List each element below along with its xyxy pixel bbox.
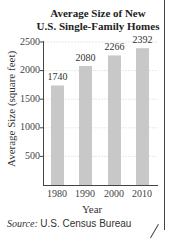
x-tick-label: 1980 (43, 188, 71, 199)
bar-2010 (136, 48, 149, 185)
source-note: Source: U.S. Census Bureau (7, 218, 131, 229)
x-tick-label: 2000 (100, 188, 128, 199)
bar-1990 (79, 66, 92, 185)
page-edge-line (164, 0, 165, 230)
y-axis-label: Average Size (square feet) (5, 57, 17, 167)
y-tick-label: 2500 (4, 36, 40, 47)
bar-value-label: 2080 (71, 52, 101, 63)
source-label: Source: (7, 218, 38, 229)
bar-1980 (51, 85, 64, 185)
x-tick-label: 2010 (128, 188, 156, 199)
bars (51, 48, 149, 185)
x-tick-label: 1990 (71, 188, 99, 199)
bar-value-label: 2266 (100, 41, 130, 52)
bar-value-label: 1740 (43, 71, 73, 82)
bar-value-label: 2392 (128, 34, 158, 45)
source-value: U.S. Census Bureau (40, 218, 131, 229)
x-axis-label: Year (82, 203, 102, 215)
bar-2000 (108, 55, 121, 185)
